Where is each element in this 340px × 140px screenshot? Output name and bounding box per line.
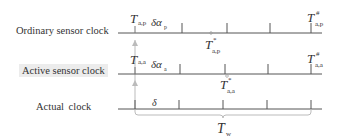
active-sensor-timeline [118,64,322,77]
active-mid-label: T * a,a [220,76,236,95]
ordinary-sensor-timeline [118,23,322,34]
svg-text:w: w [226,130,232,138]
window-period-label: T w [217,121,232,138]
svg-text:a,a: a,a [227,87,236,95]
svg-text:a,a: a,a [315,61,324,69]
svg-text:#: # [316,9,320,17]
svg-text:p: p [164,24,167,30]
svg-text:*: * [228,76,232,84]
svg-text:δα: δα [151,16,162,28]
actual-clock-timeline [118,100,322,109]
svg-text:*: * [213,36,217,44]
svg-text:T: T [217,121,226,136]
ordinary-drift-label: δα p [151,16,167,30]
svg-text:a,p: a,p [212,47,221,55]
svg-text:T: T [130,52,138,67]
window-bracket [135,109,311,118]
active-drift-label: δα a [151,58,167,72]
svg-text:T: T [307,10,315,25]
svg-text:a,p: a,p [138,19,147,27]
svg-text:T: T [130,11,138,26]
ordinary-mid-label: T * a,p [205,36,221,55]
svg-text:δα: δα [151,58,162,70]
sync-arrow [132,40,138,110]
clock-timeline-diagram: T a,p δα p T * a,p T # a,p T a,a δα a T … [0,0,340,140]
svg-text:a,a: a,a [138,58,147,66]
svg-text:a,p: a,p [315,20,324,28]
active-end-label: T # a,a [307,50,324,69]
delta-interval-label: δ [152,97,157,108]
ordinary-start-label: T a,p [130,11,147,27]
active-start-label: T a,a [130,52,147,67]
ordinary-end-label: T # a,p [307,9,324,28]
svg-text:T: T [307,51,315,66]
svg-text:#: # [316,50,320,58]
svg-text:a: a [164,66,167,72]
